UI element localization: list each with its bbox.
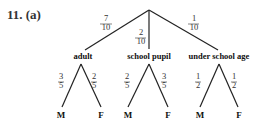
prob-school-pupil-f: 35 <box>157 72 171 90</box>
node-adult: adult <box>74 51 93 61</box>
prob-under-school-age: 110 <box>187 14 201 32</box>
node-school-pupil: school pupil <box>127 51 171 61</box>
prob-under-school-age-m: 12 <box>191 72 205 90</box>
leaf-under-school-age-f: F <box>236 110 242 120</box>
prob-adult-f: 25 <box>87 72 101 90</box>
prob-school-pupil: 210 <box>134 28 148 46</box>
prob-under-school-age-f: 12 <box>227 72 241 90</box>
node-under-school-age: under school age <box>189 51 250 61</box>
prob-adult-m: 35 <box>54 72 68 90</box>
leaf-under-school-age-m: M <box>196 110 205 120</box>
branch-under-school-age-line <box>149 10 218 50</box>
prob-adult: 710 <box>99 14 113 32</box>
leaf-school-pupil-f: F <box>165 110 171 120</box>
prob-school-pupil-m: 25 <box>120 72 134 90</box>
leaf-school-pupil-m: M <box>124 110 133 120</box>
leaf-adult-f: F <box>98 110 104 120</box>
tree-lines <box>0 0 257 127</box>
leaf-adult-m: M <box>57 110 66 120</box>
